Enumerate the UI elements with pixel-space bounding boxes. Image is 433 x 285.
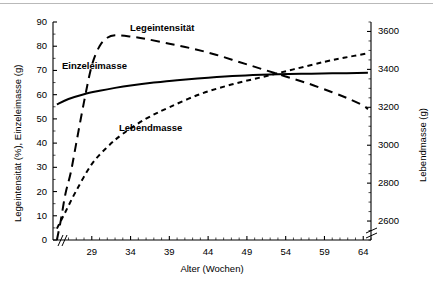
- right-tick-label: 3000: [378, 140, 399, 150]
- series-curve: [57, 53, 368, 228]
- x-tick-label: 64: [348, 247, 378, 257]
- series-label: Einzeleimasse: [62, 60, 127, 71]
- right-tick-label: 3600: [378, 26, 399, 36]
- x-tick-label: 54: [271, 247, 301, 257]
- left-axis-ticks: [53, 22, 57, 240]
- plot-canvas: [0, 0, 433, 285]
- left-tick-label: 80: [17, 41, 47, 51]
- right-tick-label: 2600: [378, 216, 399, 226]
- left-axis-title: Legeintensität (%), Einzeleimasse (g): [12, 65, 23, 222]
- right-axis-title: Lebendmasse (g): [417, 108, 428, 182]
- x-tick-label: 29: [77, 247, 107, 257]
- right-axis-ticks: [367, 22, 371, 240]
- left-tick-label: 0: [17, 235, 47, 245]
- x-tick-label: 44: [193, 247, 223, 257]
- right-tick-label: 2800: [378, 178, 399, 188]
- series-label: Lebendmasse: [119, 122, 182, 133]
- x-axis-ticks: [69, 236, 371, 240]
- x-tick-label: 49: [232, 247, 262, 257]
- right-tick-label: 3200: [378, 102, 399, 112]
- chart-figure: 0102030405060708090 26002800300032003400…: [0, 0, 433, 285]
- x-tick-label: 34: [116, 247, 146, 257]
- series-label: Legeintensität: [130, 22, 194, 33]
- x-tick-label: 39: [154, 247, 184, 257]
- series-curve: [57, 73, 368, 104]
- x-axis-title: Alter (Wochen): [172, 263, 252, 274]
- right-tick-label: 3400: [378, 64, 399, 74]
- left-tick-label: 90: [17, 17, 47, 27]
- x-tick-label: 59: [309, 247, 339, 257]
